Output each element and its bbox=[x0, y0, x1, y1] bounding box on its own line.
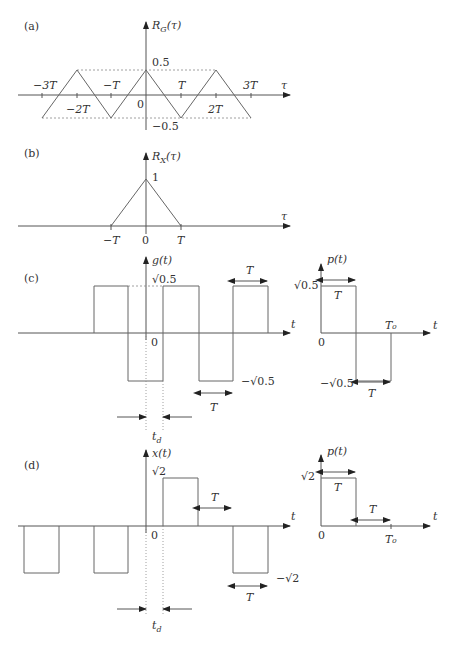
period-label-bottom: T bbox=[246, 591, 255, 604]
top-value: √2 bbox=[152, 465, 166, 478]
bottom-value: −√2 bbox=[276, 572, 299, 585]
pulse-T-right: T bbox=[369, 503, 378, 516]
pulse-p-label: p(t) bbox=[327, 445, 347, 458]
pulse-T-bottom: T bbox=[368, 387, 377, 400]
bottom-value: −0.5 bbox=[152, 120, 179, 133]
period-label-top: T bbox=[246, 264, 255, 277]
period-label-bottom: T bbox=[210, 401, 219, 414]
pulse-T-top: T bbox=[334, 289, 343, 302]
tick-label-neg2T: −2T bbox=[66, 103, 91, 116]
tau-label: τ bbox=[281, 79, 288, 92]
tick-label-3T: 3T bbox=[243, 79, 259, 92]
pulse-T-top: T bbox=[334, 481, 343, 494]
t-label: t bbox=[291, 510, 296, 523]
peak-value: 1 bbox=[152, 171, 159, 184]
tau-label: τ bbox=[281, 210, 288, 223]
panel-c-tag: (c) bbox=[24, 272, 39, 285]
pulse-T0: T₀ bbox=[385, 319, 397, 332]
rx-label: RX(τ) bbox=[151, 150, 181, 165]
delay-label: td bbox=[152, 430, 162, 445]
tick-label-negT: −T bbox=[103, 79, 121, 92]
pulse-bottom-value: −√0.5 bbox=[320, 377, 354, 390]
panel-b: (b) RX(τ) 1 −T 0 T τ bbox=[18, 147, 290, 247]
pulse-origin: 0 bbox=[318, 529, 325, 542]
figure-canvas: (a) RG(τ) 0.5 −0.5 0 −3T −T T 3T −2T 2T … bbox=[0, 0, 452, 646]
pulse-t-label: t bbox=[433, 510, 438, 523]
origin-label: 0 bbox=[151, 529, 158, 542]
tick-label-T: T bbox=[177, 234, 186, 247]
panel-d-tag: (d) bbox=[24, 459, 40, 472]
panel-b-tag: (b) bbox=[24, 147, 40, 160]
pulse-top-value: √0.5 bbox=[294, 279, 319, 292]
tick-label-0: 0 bbox=[142, 234, 149, 247]
top-value: 0.5 bbox=[152, 56, 170, 69]
origin-label: 0 bbox=[151, 336, 158, 349]
tick-label-2T: 2T bbox=[207, 103, 224, 116]
top-value: √0.5 bbox=[152, 273, 177, 286]
tick-label-negT: −T bbox=[103, 234, 121, 247]
origin-label: 0 bbox=[137, 98, 144, 111]
period-label-top: T bbox=[211, 491, 220, 504]
pulse-p-label: p(t) bbox=[327, 253, 347, 266]
pulse-top-value: √2 bbox=[301, 470, 315, 483]
panel-a-tag: (a) bbox=[24, 20, 39, 33]
rg-label: RG(τ) bbox=[151, 19, 181, 34]
panel-d: (d) td T T x(t) √2 −√2 0 t bbox=[18, 445, 438, 634]
pulse-d: T T p(t) √2 0 T₀ t bbox=[301, 445, 438, 546]
panel-c: (c) td T T g(t) √0.5 −√0.5 0 t T T p(t) bbox=[18, 253, 438, 445]
pulse-t-label: t bbox=[433, 319, 438, 332]
tick-label-T: T bbox=[178, 79, 187, 92]
pulse-origin: 0 bbox=[318, 336, 325, 349]
t-label: t bbox=[291, 318, 296, 331]
x-label: x(t) bbox=[152, 447, 171, 460]
pulse-c: T T p(t) √0.5 −√0.5 0 T₀ t bbox=[294, 253, 438, 400]
delay-label: td bbox=[152, 619, 162, 634]
g-label: g(t) bbox=[152, 254, 172, 267]
pulse-T0: T₀ bbox=[385, 533, 397, 546]
bottom-value: −√0.5 bbox=[241, 375, 275, 388]
panel-a: (a) RG(τ) 0.5 −0.5 0 −3T −T T 3T −2T 2T … bbox=[18, 19, 290, 133]
tick-label-neg3T: −3T bbox=[33, 79, 58, 92]
